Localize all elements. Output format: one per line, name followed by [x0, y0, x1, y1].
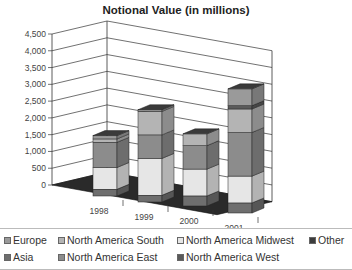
x-tick-label: 2000	[180, 216, 199, 226]
y-tick-label: 1,000	[25, 146, 47, 156]
bar-1998	[93, 131, 129, 196]
legend-swatch	[58, 254, 65, 261]
y-tick-label: 4,500	[25, 29, 47, 39]
legend-item-north-america-midwest: North America Midwest	[177, 234, 294, 246]
legend: Europe North America South North America…	[0, 228, 352, 270]
bar-2001	[228, 84, 264, 213]
plot-area: 05001,0001,5002,0002,5003,0003,5004,0004…	[0, 0, 352, 228]
y-tick-label: 500	[32, 163, 46, 173]
legend-label: North America Midwest	[186, 234, 294, 246]
legend-label: North America West	[186, 251, 279, 263]
legend-swatch	[4, 237, 11, 244]
legend-swatch	[177, 254, 184, 261]
legend-item-asia: Asia	[4, 251, 33, 263]
y-tick-label: 0	[41, 180, 46, 190]
y-tick-label: 1,500	[25, 130, 47, 140]
legend-label: Asia	[13, 251, 33, 263]
legend-swatch	[177, 237, 184, 244]
legend-item-europe: Europe	[4, 234, 47, 246]
legend-label: Other	[318, 234, 344, 246]
legend-swatch	[4, 254, 11, 261]
bar-2000	[183, 129, 219, 206]
legend-item-north-america-west: North America West	[177, 251, 279, 263]
y-tick-label: 3,000	[25, 79, 47, 89]
legend-label: Europe	[13, 234, 47, 246]
legend-item-north-america-south: North America South	[58, 234, 164, 246]
legend-item-other: Other	[309, 234, 344, 246]
y-tick-label: 2,500	[25, 96, 47, 106]
x-tick-label: 1999	[135, 212, 154, 222]
legend-label: North America South	[67, 234, 164, 246]
y-tick-label: 2,000	[25, 113, 47, 123]
y-tick-label: 4,000	[25, 46, 47, 56]
bar-1999	[138, 105, 174, 202]
legend-swatch	[309, 237, 316, 244]
legend-swatch	[58, 237, 65, 244]
legend-item-north-america-east: North America East	[58, 251, 157, 263]
x-tick-label: 1998	[90, 206, 109, 216]
legend-label: North America East	[67, 251, 157, 263]
y-tick-label: 3,500	[25, 63, 47, 73]
